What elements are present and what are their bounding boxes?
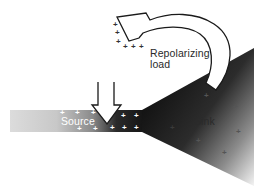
charge-plus: + <box>110 124 115 132</box>
charge-plus: + <box>131 43 136 51</box>
charge-plus: + <box>233 103 238 111</box>
sink-label: Sink <box>194 116 215 127</box>
charge-plus: + <box>222 149 227 157</box>
charge-plus: + <box>236 128 241 136</box>
load-label: load <box>150 59 170 70</box>
charge-plus: + <box>204 92 209 100</box>
charge-plus: + <box>139 43 144 51</box>
charge-plus: + <box>115 29 120 37</box>
charge-plus: + <box>75 109 80 117</box>
charge-plus: + <box>93 125 98 133</box>
diagram-canvas <box>0 0 260 195</box>
charge-plus: + <box>60 109 65 117</box>
charge-plus: + <box>196 137 201 145</box>
source-sink-diagram: Repolarizing load Source Sink + + + + + … <box>0 0 260 195</box>
charge-plus: + <box>170 124 175 132</box>
charge-plus: + <box>116 38 121 46</box>
charge-plus: + <box>134 124 139 132</box>
charge-plus: + <box>134 112 139 120</box>
charge-plus: + <box>121 112 126 120</box>
charge-plus: + <box>122 124 127 132</box>
charge-plus: + <box>123 43 128 51</box>
charge-plus: + <box>77 125 82 133</box>
charge-plus: + <box>91 109 96 117</box>
